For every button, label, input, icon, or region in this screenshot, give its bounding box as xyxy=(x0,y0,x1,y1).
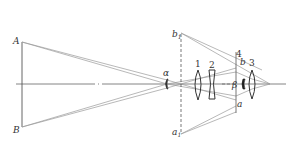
image-rays xyxy=(181,33,270,134)
label-lens-3: 3 xyxy=(249,58,255,68)
label-a: a xyxy=(237,99,242,109)
label-beta: β xyxy=(231,80,237,90)
label-plane-4: 4 xyxy=(236,49,242,59)
label-alpha: α xyxy=(163,68,169,78)
object-rays xyxy=(22,42,236,127)
label-a1: a1 xyxy=(172,127,181,138)
label-A: A xyxy=(12,36,20,46)
lens-1-icon xyxy=(195,70,201,100)
optical-diagram: A B α β b1 a1 b a 1 2 3 4 xyxy=(0,0,294,150)
label-lens-1: 1 xyxy=(195,59,201,69)
diagram-svg: A B α β b1 a1 b a 1 2 3 4 xyxy=(0,0,294,150)
lens-2-icon xyxy=(209,70,215,99)
label-b1: b1 xyxy=(172,29,182,40)
label-lens-2: 2 xyxy=(209,60,215,70)
label-B: B xyxy=(12,125,20,135)
lens-3-icon xyxy=(249,70,255,99)
